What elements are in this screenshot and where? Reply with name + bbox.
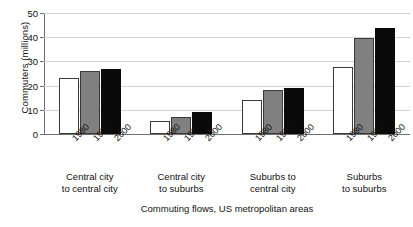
y-tick-mark-0 [40,134,44,135]
y-tick-label: 50 [27,8,38,19]
x-axis-group-labels: Central cityto central cityCentral cityt… [44,171,410,199]
y-tick-label: 10 [27,104,38,115]
group-label-line-1: Suburbs [347,171,382,182]
group-label-line-2: central city [227,183,319,195]
group-label: Central cityto central city [44,171,136,195]
bar-chart: Commuters (millions) 01020304050 1980199… [0,0,413,227]
bar [59,78,79,134]
bar [375,28,395,134]
group-label-line-2: to suburbs [319,183,411,195]
group-label-line-2: to suburbs [136,183,228,195]
x-axis-year-labels: 1980199020001980199020001980199020001980… [44,136,410,170]
bars-layer [44,13,410,134]
y-tick-label: 0 [33,129,38,140]
group-label-line-1: Suburbs to [250,171,296,182]
y-tick-label: 30 [27,56,38,67]
group-label: Suburbs tocentral city [227,171,319,195]
group-label-line-1: Central city [157,171,205,182]
bar [333,67,353,134]
y-tick-label: 20 [27,80,38,91]
group-label: Central cityto suburbs [136,171,228,195]
plot-area: 01020304050 [44,13,410,134]
y-axis-title: Commuters (millions) [19,0,30,138]
group-label: Suburbsto suburbs [319,171,411,195]
x-axis-title: Commuting flows, US metropolitan areas [44,203,410,214]
y-tick-label: 40 [27,32,38,43]
group-label-line-1: Central city [66,171,114,182]
bar [354,38,374,134]
group-label-line-2: to central city [44,183,136,195]
